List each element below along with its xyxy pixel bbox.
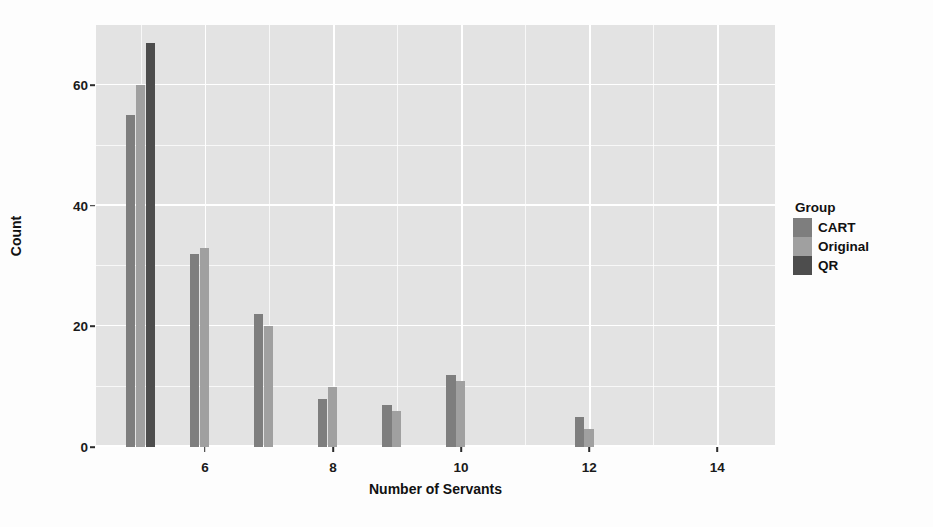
- bar: [328, 387, 337, 447]
- bar: [456, 381, 465, 447]
- x-tick-label: 6: [201, 460, 209, 475]
- x-tick-mark: [588, 447, 590, 452]
- x-tick-mark: [460, 447, 462, 452]
- bar: [264, 326, 273, 447]
- plot-panel: [96, 25, 775, 447]
- x-tick-label: 12: [582, 460, 597, 475]
- y-tick-mark: [90, 326, 95, 328]
- x-tick-label: 14: [710, 460, 725, 475]
- y-tick-label: 60: [73, 78, 88, 93]
- y-axis-label: Count: [8, 216, 24, 256]
- x-tick-mark: [717, 447, 719, 452]
- legend-items: CARTOriginalQR: [793, 218, 923, 275]
- bar: [575, 417, 584, 447]
- bar: [392, 411, 401, 447]
- bar-series-container: [96, 25, 775, 447]
- bar: [584, 429, 593, 447]
- legend-item: CART: [793, 218, 923, 237]
- legend-item-label: QR: [818, 258, 838, 273]
- y-tick-mark: [90, 84, 95, 86]
- bar: [446, 375, 455, 447]
- bar: [126, 115, 135, 447]
- x-tick-label: 10: [454, 460, 469, 475]
- y-tick-mark: [90, 446, 95, 448]
- legend: Group CARTOriginalQR: [793, 200, 923, 275]
- bar: [254, 314, 263, 447]
- y-tick-label: 20: [73, 319, 88, 334]
- chart-figure: 0204060 68101214 Number of Servants Coun…: [0, 0, 933, 527]
- y-tick-label: 0: [80, 440, 88, 455]
- legend-item-label: Original: [818, 239, 869, 254]
- legend-swatch-icon: [793, 237, 812, 256]
- bar: [146, 43, 155, 447]
- legend-item: QR: [793, 256, 923, 275]
- bar: [190, 254, 199, 447]
- legend-swatch-icon: [793, 256, 812, 275]
- legend-swatch-icon: [793, 218, 812, 237]
- x-tick-mark: [332, 447, 334, 452]
- bar: [382, 405, 391, 447]
- legend-item-label: CART: [818, 220, 856, 235]
- bar: [200, 248, 209, 447]
- y-tick-mark: [90, 205, 95, 207]
- legend-item: Original: [793, 237, 923, 256]
- bar: [136, 85, 145, 447]
- x-tick-mark: [204, 447, 206, 452]
- y-tick-label: 40: [73, 198, 88, 213]
- x-axis-label: Number of Servants: [96, 481, 775, 497]
- x-tick-label: 8: [329, 460, 337, 475]
- bar: [318, 399, 327, 447]
- legend-title: Group: [795, 200, 923, 215]
